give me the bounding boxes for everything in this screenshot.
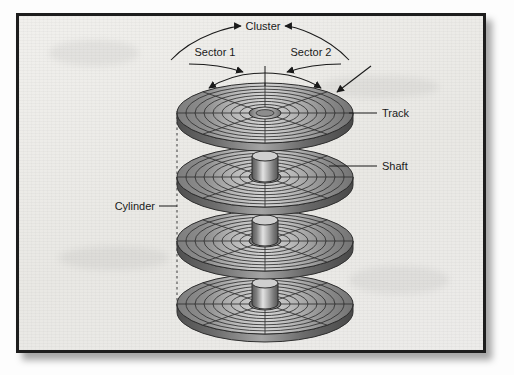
- cylinder-label: Cylinder: [115, 200, 156, 212]
- shaft-segment-1: [252, 151, 278, 182]
- platter-spindle-hole: [256, 110, 274, 117]
- sector-2-label: Sector 2: [291, 46, 332, 58]
- callout-track: Track: [349, 107, 410, 119]
- shaft-cap: [252, 215, 278, 225]
- callout-sector-1: Sector 1: [189, 46, 265, 88]
- track-label: Track: [382, 107, 410, 119]
- shaft-label: Shaft: [382, 160, 408, 172]
- shaft-segment-2: [252, 215, 278, 246]
- sector-1-arrow-inner: [189, 64, 243, 72]
- figure-root: Cylinder Track Shaft Cluster: [0, 0, 514, 375]
- shaft-segment-3: [252, 278, 278, 309]
- platter-1: [177, 83, 353, 151]
- cluster-label: Cluster: [246, 20, 281, 32]
- sector-1-label: Sector 1: [195, 46, 236, 58]
- sector-2-arrow-inner: [287, 64, 341, 72]
- figure-frame: Cylinder Track Shaft Cluster: [16, 13, 486, 353]
- shaft-cap: [252, 151, 278, 161]
- disk-stack-illustration: Cylinder Track Shaft Cluster: [19, 16, 483, 350]
- callout-sector-2: Sector 2: [265, 46, 341, 88]
- track-edge-pointer: [337, 66, 371, 92]
- callout-cylinder: Cylinder: [115, 200, 177, 212]
